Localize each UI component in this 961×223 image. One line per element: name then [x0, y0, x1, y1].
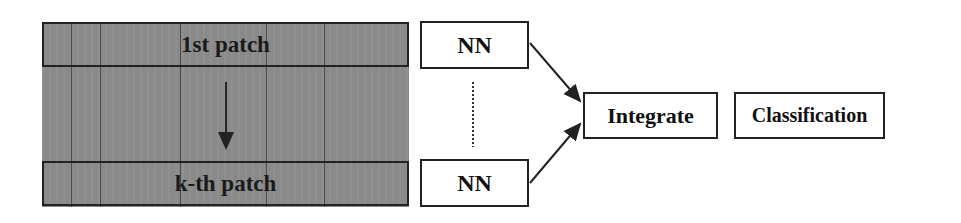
arrow-nn1-to-integrate — [530, 43, 580, 101]
arrow-nn2-to-integrate — [530, 124, 580, 183]
connectors — [0, 0, 961, 223]
